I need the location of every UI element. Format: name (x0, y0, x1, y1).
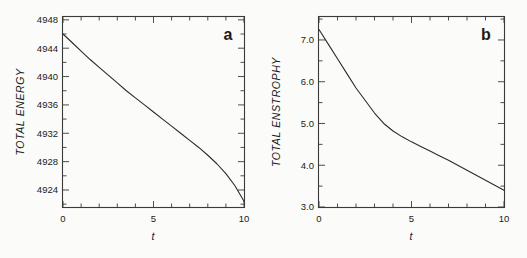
y-tick-label: 3.0 (301, 201, 314, 212)
y-tick-label: 5.0 (301, 118, 314, 129)
panel-a-y-axis-title: TOTAL ENERGY (14, 68, 26, 156)
x-tick-label: 10 (239, 213, 250, 224)
total-enstrophy-curve (319, 30, 504, 191)
x-tick-label: 5 (151, 213, 156, 224)
y-tick-label: 6.0 (301, 76, 314, 87)
panel-b-y-tick-labels: 3.04.05.06.07.0 (301, 34, 314, 212)
y-tick-label: 4932 (37, 128, 58, 139)
figure-container: 4924492849324936494049444948 0510 TOTAL … (0, 0, 527, 258)
panel-a-y-tick-labels: 4924492849324936494049444948 (37, 14, 58, 195)
y-tick-label: 4940 (37, 71, 58, 82)
panel-b: 3.04.05.06.07.0 0510 TOTAL ENSTROPHY t b (264, 0, 527, 258)
panel-b-y-axis-title: TOTAL ENSTROPHY (270, 57, 282, 167)
y-tick-label: 4928 (37, 156, 58, 167)
panel-a-x-tick-labels: 0510 (60, 213, 249, 224)
y-tick-label: 4924 (37, 184, 58, 195)
panel-a-letter: a (224, 26, 233, 43)
panel-a-x-axis-title: t (152, 230, 156, 242)
panel-a-svg: 4924492849324936494049444948 0510 TOTAL … (0, 0, 264, 258)
y-tick-label: 4.0 (301, 160, 314, 171)
x-tick-label: 0 (60, 213, 65, 224)
total-energy-curve (63, 34, 244, 201)
panel-b-x-tick-labels: 0510 (316, 213, 509, 224)
panel-b-tickmarks (319, 17, 504, 207)
panel-b-letter: b (481, 26, 491, 43)
x-tick-label: 10 (499, 213, 510, 224)
x-tick-label: 0 (316, 213, 321, 224)
panel-b-x-axis-title: t (410, 230, 414, 242)
y-tick-label: 7.0 (301, 34, 314, 45)
y-tick-label: 4948 (37, 14, 58, 25)
y-tick-label: 4936 (37, 99, 58, 110)
x-tick-label: 5 (409, 213, 414, 224)
panel-a: 4924492849324936494049444948 0510 TOTAL … (0, 0, 264, 258)
y-tick-label: 4944 (37, 43, 58, 54)
panel-b-frame (319, 17, 505, 208)
panel-b-svg: 3.04.05.06.07.0 0510 TOTAL ENSTROPHY t b (264, 0, 527, 258)
